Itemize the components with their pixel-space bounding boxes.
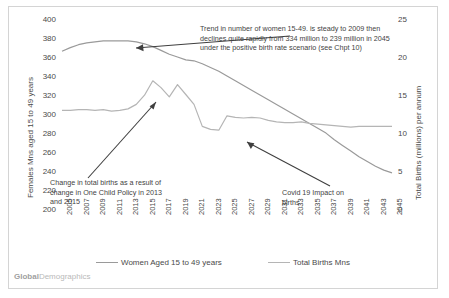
left-tick-320: 320 — [34, 91, 56, 100]
legend-item-births: Total Births Mns — [268, 258, 350, 267]
chart-figure: Females Mns aged 15 to 49 years Total Bi… — [0, 0, 449, 298]
watermark: GlobalDemographics — [14, 272, 90, 281]
right-tick-25: 25 — [398, 15, 412, 24]
left-tick-280: 280 — [34, 129, 56, 138]
legend-swatch-women — [96, 262, 118, 263]
right-axis-title: Total Births (millions) per annum — [414, 86, 423, 200]
annotation-women-trend: Trend in number of women 15-49. is stead… — [200, 24, 390, 53]
series-line-women — [62, 41, 392, 173]
watermark-rest: Demographics — [39, 272, 91, 281]
x-tick-2029: 2029 — [263, 198, 272, 215]
right-tick-15: 15 — [398, 91, 412, 100]
left-tick-300: 300 — [34, 110, 56, 119]
right-tick-10: 10 — [398, 129, 412, 138]
legend-item-women: Women Aged 15 to 49 years — [96, 258, 222, 267]
x-tick-2019: 2019 — [181, 198, 190, 215]
left-tick-360: 360 — [34, 53, 56, 62]
x-tick-2027: 2027 — [247, 198, 256, 215]
x-tick-2025: 2025 — [230, 198, 239, 215]
x-tick-2043: 2043 — [379, 198, 388, 215]
annotation-covid-impact: Covid 19 Impact on births — [282, 188, 362, 207]
arrow-covid-impact — [247, 142, 330, 186]
left-tick-240: 240 — [34, 167, 56, 176]
arrow-one-child-policy — [88, 102, 156, 178]
right-tick-5: 5 — [398, 167, 412, 176]
watermark-bold: Global — [14, 272, 39, 281]
arrowhead-women-trend — [136, 44, 144, 51]
x-tick-2021: 2021 — [197, 198, 206, 215]
legend-swatch-births — [268, 262, 290, 263]
annotation-arrows — [88, 36, 330, 186]
left-tick-380: 380 — [34, 34, 56, 43]
annotation-one-child-policy: Change in total births as a result of ch… — [50, 178, 168, 207]
legend-label-births: Total Births Mns — [293, 258, 350, 267]
x-tick-2041: 2041 — [362, 198, 371, 215]
left-tick-340: 340 — [34, 72, 56, 81]
left-tick-260: 260 — [34, 148, 56, 157]
series-line-births — [62, 81, 392, 130]
legend-label-women: Women Aged 15 to 49 years — [121, 258, 222, 267]
right-tick-20: 20 — [398, 53, 412, 62]
left-tick-400: 400 — [34, 15, 56, 24]
x-tick-2023: 2023 — [214, 198, 223, 215]
x-tick-2045: 2045 — [395, 198, 404, 215]
